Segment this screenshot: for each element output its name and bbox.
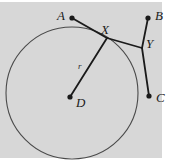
geometry-figure: ABCDXYr — [0, 0, 175, 168]
point-dot-a — [69, 15, 74, 20]
point-label-a: A — [57, 9, 65, 22]
point-dot-c — [146, 93, 151, 98]
point-dot-d — [67, 94, 72, 99]
point-label-y: Y — [146, 37, 153, 50]
point-label-x: X — [101, 23, 109, 36]
point-label-b: B — [155, 9, 163, 22]
segment-label-r: r — [78, 62, 82, 71]
diagram-canvas — [0, 0, 175, 168]
point-label-d: D — [76, 96, 85, 109]
point-dot-b — [145, 15, 150, 20]
point-label-c: C — [156, 91, 165, 104]
